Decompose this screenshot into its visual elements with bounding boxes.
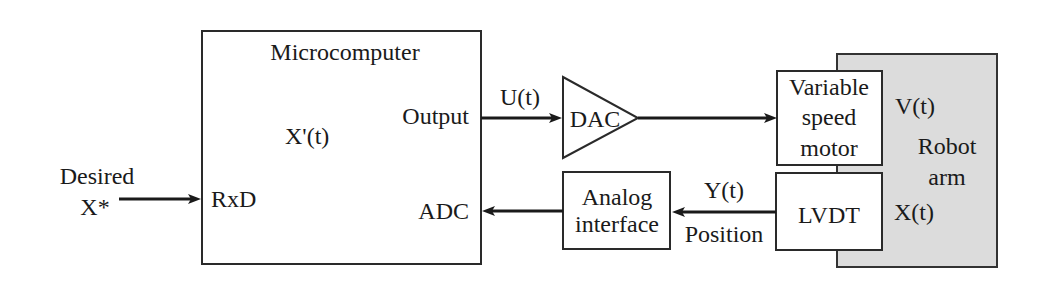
position-caption: Position (685, 221, 764, 247)
dac-to-motor-arrow (638, 113, 777, 123)
analog-to-adc-arrow (482, 206, 563, 216)
output-port-label: Output (402, 103, 469, 129)
microcomputer-title: Microcomputer (270, 39, 419, 65)
control-signal-label: U(t) (500, 84, 540, 110)
robot-label-line1: Robot (918, 133, 977, 159)
rxd-port-label: RxD (211, 186, 256, 212)
block-diagram: Desired X* Microcomputer X'(t) RxD Outpu… (0, 0, 1044, 283)
motor-label-line2: speed (802, 104, 857, 130)
diagram-canvas: Desired X* Microcomputer X'(t) RxD Outpu… (0, 0, 1044, 283)
feedback-signal-label: Y(t) (704, 177, 744, 203)
desired-label: Desired (60, 163, 135, 189)
analog-label-line1: Analog (582, 184, 653, 210)
analog-label-line2: interface (575, 211, 659, 237)
position-signal-label: X(t) (894, 199, 934, 225)
microcomputer-block (202, 31, 481, 264)
lvdt-label: LVDT (798, 202, 860, 228)
input-arrow (119, 194, 201, 204)
output-to-dac-arrow (481, 113, 562, 123)
dac-label: DAC (570, 106, 621, 132)
velocity-signal-label: V(t) (895, 93, 935, 119)
motor-label-line3: motor (800, 135, 857, 161)
lvdt-to-analog-arrow (672, 207, 776, 217)
internal-signal-label: X'(t) (285, 123, 329, 149)
robot-label-line2: arm (928, 164, 966, 190)
setpoint-x-star-label: X* (80, 194, 109, 220)
motor-label-line1: Variable (789, 74, 869, 100)
adc-port-label: ADC (418, 198, 469, 224)
